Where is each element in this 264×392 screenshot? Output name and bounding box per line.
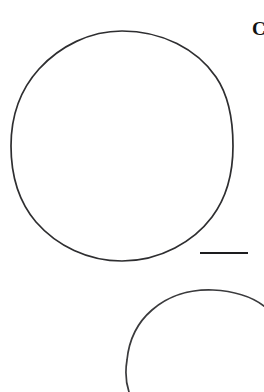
figure-canvas <box>0 0 264 392</box>
panel-label: C <box>252 19 264 38</box>
figure-panel: C <box>0 0 264 392</box>
